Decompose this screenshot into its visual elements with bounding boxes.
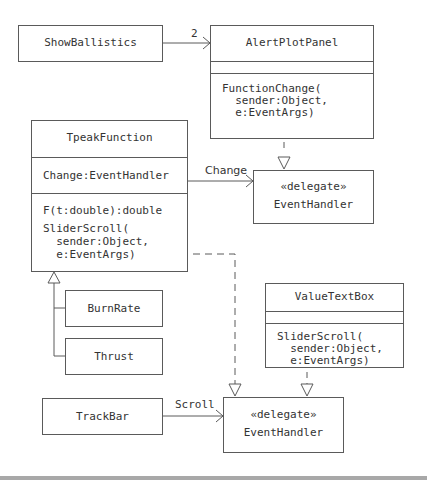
class-name: TrackBar — [43, 410, 162, 423]
operations-compartment: SliderScroll( sender:Object, e:EventArgs… — [266, 323, 403, 367]
scroll-association-label: Scroll — [175, 398, 215, 411]
operation-line: F(t:double):double — [43, 204, 162, 217]
attribute-line: Change:EventHandler — [43, 169, 169, 182]
class-name: EventHandler — [254, 198, 373, 211]
class-thrust: Thrust — [65, 338, 163, 375]
change-association-label: Change — [205, 164, 247, 177]
operation-line: e:EventArgs) — [43, 248, 136, 261]
stereotype-label: «delegate» — [254, 180, 373, 193]
uml-class-diagram: 2 Change Scroll ShowBallistics AlertPlot… — [0, 0, 427, 485]
association-trackbar-eventhandler — [162, 410, 223, 422]
class-name: TpeakFunction — [32, 131, 187, 144]
operations-compartment: FunctionChange( sender:Object, e:EventAr… — [211, 73, 373, 138]
class-trackbar: TrackBar — [42, 398, 163, 435]
delegate-eventhandler-bottom: «delegate» EventHandler — [223, 397, 344, 453]
operations-compartment: F(t:double):double SliderScroll( sender:… — [32, 193, 187, 271]
class-valuetextbox: ValueTextBox SliderScroll( sender:Object… — [265, 283, 404, 368]
multiplicity-label: 2 — [191, 27, 198, 40]
class-name: ShowBallistics — [19, 36, 162, 49]
class-alertplotpanel: AlertPlotPanel FunctionChange( sender:Ob… — [210, 25, 374, 139]
operation-line: e:EventArgs) — [277, 354, 370, 367]
class-name: ValueTextBox — [266, 290, 403, 303]
operation-line: e:EventArgs) — [222, 106, 315, 119]
operation-line: SliderScroll( — [43, 222, 129, 235]
class-name: BurnRate — [66, 302, 162, 315]
stereotype-label: «delegate» — [224, 408, 343, 421]
class-burnrate: BurnRate — [65, 290, 163, 327]
association-showballistics-alertplotpanel — [162, 37, 210, 49]
operation-line: sender:Object, — [43, 235, 149, 248]
class-tpeakfunction: TpeakFunction Change:EventHandler F(t:do… — [31, 120, 188, 272]
class-name: Thrust — [66, 350, 162, 363]
class-showballistics: ShowBallistics — [18, 25, 163, 62]
class-name: AlertPlotPanel — [211, 36, 373, 49]
class-name: EventHandler — [224, 426, 343, 439]
page-divider — [0, 476, 427, 480]
attributes-compartment: Change:EventHandler — [32, 157, 187, 194]
generalization-subclasses-tpeakfunction — [48, 272, 65, 356]
delegate-eventhandler-top: «delegate» EventHandler — [253, 170, 374, 224]
